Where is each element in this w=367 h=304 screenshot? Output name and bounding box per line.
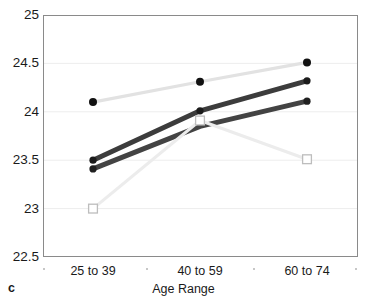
y-axis-ticks: 22.52323.52424.525 <box>0 0 39 304</box>
x-tick-label: 60 to 74 <box>284 265 329 278</box>
series-1 <box>89 58 311 106</box>
series-4 <box>89 116 312 213</box>
axis-minor-tick <box>146 268 148 270</box>
y-tick-label: 24 <box>24 105 39 119</box>
x-tick-label: 40 to 59 <box>177 265 222 278</box>
axis-minor-tick <box>355 268 357 270</box>
figure-panel-c: 22.52323.52424.525 25 to 3940 to 5960 to… <box>0 0 367 304</box>
y-tick-label: 24.5 <box>13 57 39 71</box>
y-tick-label: 23.5 <box>13 153 39 167</box>
x-tick-label: 25 to 39 <box>70 265 115 278</box>
series-line <box>93 121 307 209</box>
data-point-circle <box>89 157 96 164</box>
data-point-circle <box>89 165 96 172</box>
axis-minor-tick <box>43 268 45 270</box>
axis-minor-tick <box>253 268 255 270</box>
y-tick-label: 25 <box>24 8 39 22</box>
panel-label: c <box>8 282 15 295</box>
y-tick-label: 22.5 <box>13 250 39 264</box>
data-point-square <box>196 116 205 125</box>
chart-canvas <box>0 0 367 304</box>
x-axis-title: Age Range <box>0 283 367 296</box>
data-point-circle <box>196 107 203 114</box>
data-point-square <box>89 204 98 213</box>
x-axis-ticks: 25 to 3940 to 5960 to 74 <box>0 265 367 281</box>
data-point-circle <box>89 98 97 106</box>
data-point-circle <box>196 78 204 86</box>
data-point-circle <box>303 58 311 66</box>
data-point-square <box>303 155 312 164</box>
y-tick-label: 23 <box>24 202 39 216</box>
data-point-circle <box>303 77 310 84</box>
data-point-circle <box>303 98 310 105</box>
series-layer <box>89 58 312 213</box>
